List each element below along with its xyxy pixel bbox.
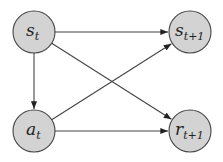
node-a_t: at (13, 110, 55, 152)
node-label-subscript: t+1 (184, 30, 205, 43)
node-label-base: s (26, 20, 35, 40)
causal-graph-diagram: stst+1atrt+1 (0, 0, 223, 162)
node-label-subscript: t+1 (183, 129, 204, 142)
node-label-subscript: t (36, 129, 41, 142)
node-s_t1: st+1 (169, 11, 211, 53)
node-label-subscript: t (35, 30, 40, 43)
edges (34, 32, 171, 131)
node-s_t: st (13, 11, 55, 53)
node-label-base: s (175, 20, 184, 40)
node-label-base: a (26, 119, 36, 139)
diagram-svg: stst+1atrt+1 (0, 0, 223, 162)
node-r_t1: rt+1 (169, 110, 211, 152)
